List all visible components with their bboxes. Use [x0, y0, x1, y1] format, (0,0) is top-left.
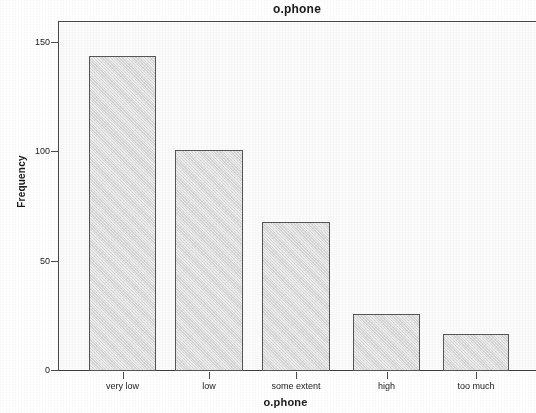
- bar-low: [175, 150, 243, 371]
- y-axis-tick: [51, 261, 58, 262]
- x-axis-tick-label: some extent: [251, 381, 341, 391]
- y-axis-tick-label: 0: [30, 365, 50, 375]
- y-axis-tick-label: 50: [30, 256, 50, 266]
- x-axis-tick: [296, 372, 297, 379]
- y-axis-tick-label: 100: [30, 146, 50, 156]
- y-axis-tick: [51, 370, 58, 371]
- bar-too-much: [443, 334, 509, 371]
- x-axis-tick: [209, 372, 210, 379]
- y-axis-tick-label: 150: [30, 37, 50, 47]
- y-axis-tick: [51, 42, 58, 43]
- histogram-chart: o.phone Frequency 050100150very lowlowso…: [0, 0, 536, 413]
- x-axis-tick: [476, 372, 477, 379]
- x-axis-tick: [123, 372, 124, 379]
- x-axis-tick-label: high: [342, 381, 432, 391]
- x-axis-tick: [387, 372, 388, 379]
- y-axis-tick: [51, 151, 58, 152]
- bar-some-extent: [262, 222, 330, 371]
- y-axis-title: Frequency: [16, 132, 27, 232]
- chart-title: o.phone: [58, 2, 536, 16]
- x-axis-tick-label: too much: [431, 381, 521, 391]
- bar-very-low: [89, 56, 156, 371]
- bar-high: [353, 314, 420, 371]
- x-axis-title: o.phone: [58, 396, 513, 408]
- plot-area: [58, 21, 536, 371]
- x-axis-tick-label: very low: [78, 381, 168, 391]
- x-axis-tick-label: low: [164, 381, 254, 391]
